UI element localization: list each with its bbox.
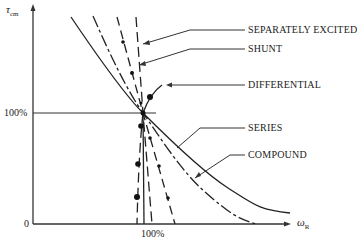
compound-curve <box>93 16 257 224</box>
leader-separately-excited <box>143 30 245 44</box>
x-tick-100pct: 100% <box>141 228 164 239</box>
arrow-icon <box>143 40 150 45</box>
x-axis-symbol: ω <box>297 216 305 228</box>
y-axis-arrow-icon <box>31 4 36 11</box>
differential-curve-lower <box>137 113 143 224</box>
arrow-icon <box>195 172 201 178</box>
rated-point <box>141 111 146 116</box>
differential-curve-upper <box>143 85 162 113</box>
y-axis-subscript: cm <box>10 10 19 18</box>
shunt-curve <box>117 17 175 224</box>
leader-compound <box>195 155 245 178</box>
leader-series <box>177 128 245 148</box>
axes <box>33 9 286 224</box>
label-shunt: SHUNT <box>248 43 282 54</box>
x-axis-arrow-icon <box>284 222 291 227</box>
label-compound: COMPOUND <box>248 149 307 160</box>
arrow-icon <box>166 83 172 88</box>
leader-shunt <box>139 49 245 65</box>
y-tick-100pct: 100% <box>4 107 27 118</box>
x-axis-title: ωR <box>297 216 309 231</box>
x-axis-subscript: R <box>305 223 310 231</box>
label-separately-excited: SEPARATELY EXCITED <box>248 24 357 35</box>
label-differential: DIFFERENTIAL <box>248 79 321 90</box>
leader-arrowheads <box>139 40 201 178</box>
label-series: SERIES <box>248 122 283 133</box>
y-axis-title: τcm <box>6 3 19 18</box>
origin-label: 0 <box>24 218 29 229</box>
